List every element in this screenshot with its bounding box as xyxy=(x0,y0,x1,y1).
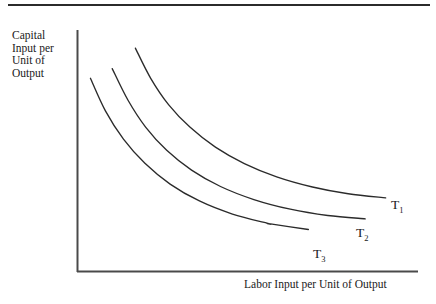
curve-t2 xyxy=(112,69,365,219)
y-axis-label-line-1: Capital xyxy=(12,29,74,42)
x-axis-label: Labor Input per Unit of Output xyxy=(244,277,387,291)
curve-label-t1-subscript: 1 xyxy=(399,205,403,215)
curve-label-t3: T3 xyxy=(313,247,326,263)
curve-label-t2: T2 xyxy=(356,226,369,242)
curve-label-t3-subscript: 3 xyxy=(321,254,325,264)
y-axis-label: Capital Input per Unit of Output xyxy=(12,29,74,79)
curve-label-t3-base: T xyxy=(313,246,321,261)
isoquant-figure: Capital Input per Unit of Output Labor I… xyxy=(0,0,436,304)
y-axis-label-line-2: Input per xyxy=(12,42,74,55)
y-axis-label-line-4: Output xyxy=(12,67,74,80)
curve-label-t2-base: T xyxy=(356,225,364,240)
curve-t1 xyxy=(135,48,385,198)
curve-label-t1-base: T xyxy=(391,197,399,212)
y-axis-label-line-3: Unit of xyxy=(12,54,74,67)
curve-t3 xyxy=(90,78,308,229)
curve-label-t2-subscript: 2 xyxy=(364,233,368,243)
curve-label-t1: T1 xyxy=(391,198,404,214)
